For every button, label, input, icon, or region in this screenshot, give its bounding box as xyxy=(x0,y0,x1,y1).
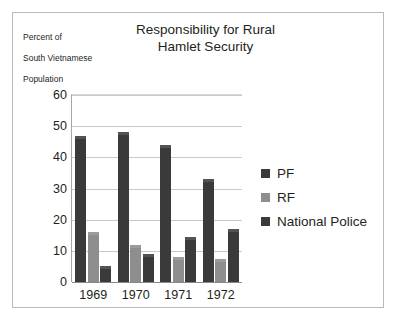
x-axis-tick-label: 1972 xyxy=(207,288,235,302)
bar-highlight xyxy=(118,132,129,135)
bar xyxy=(203,179,214,282)
bar-highlight xyxy=(75,136,86,139)
bar-highlight xyxy=(100,266,111,269)
y-axis-tick-label: 40 xyxy=(53,150,67,164)
chart-frame: Percent of South Vietnamese Population R… xyxy=(12,12,384,308)
legend-item[interactable]: National Police xyxy=(261,209,393,233)
legend-item-label: PF xyxy=(277,166,294,181)
bar xyxy=(143,254,154,282)
x-axis-tick-label: 1969 xyxy=(79,288,107,302)
legend-swatch-icon xyxy=(261,217,270,226)
plot-container: 0102030405060 1969197019711972 xyxy=(59,82,243,282)
bar xyxy=(160,145,171,282)
bar-highlight xyxy=(130,245,141,248)
bar-group xyxy=(75,95,111,282)
bar-highlight xyxy=(228,229,239,232)
x-axis-tick-label: 1971 xyxy=(164,288,192,302)
bar-group xyxy=(160,95,196,282)
bar xyxy=(75,136,86,282)
bar xyxy=(100,266,111,282)
y-axis-caption-line-2: South Vietnamese xyxy=(23,53,92,63)
y-axis-tick-label: 0 xyxy=(60,275,67,289)
bar-group xyxy=(118,95,154,282)
bar xyxy=(228,229,239,282)
chart-title: Responsibility for Rural Hamlet Security xyxy=(113,21,298,55)
chart-title-line-2: Hamlet Security xyxy=(113,38,298,55)
y-axis-tick-label: 50 xyxy=(53,119,67,133)
y-axis-caption-line-1: Percent of xyxy=(23,32,62,42)
y-axis-tick-label: 30 xyxy=(53,182,67,196)
bar-highlight xyxy=(185,237,196,240)
bar-highlight xyxy=(173,257,184,260)
bar-highlight xyxy=(160,145,171,148)
y-axis-tick-label: 60 xyxy=(53,88,67,102)
bar xyxy=(130,245,141,282)
legend-swatch-icon xyxy=(261,193,270,202)
bar-highlight xyxy=(215,259,226,262)
bar xyxy=(215,259,226,282)
y-axis-tick-label: 20 xyxy=(53,213,67,227)
legend-item[interactable]: PF xyxy=(261,161,393,185)
gridline-0 xyxy=(72,282,242,283)
x-axis-tick-label: 1970 xyxy=(122,288,150,302)
chart-title-line-1: Responsibility for Rural xyxy=(113,21,298,38)
y-axis-tick-label: 10 xyxy=(53,244,67,258)
legend-item-label: National Police xyxy=(277,214,367,229)
bar-highlight xyxy=(203,179,214,182)
bar xyxy=(88,232,99,282)
legend-item-label: RF xyxy=(277,190,295,205)
legend-item[interactable]: RF xyxy=(261,185,393,209)
bar xyxy=(185,237,196,282)
plot-area: 0102030405060 1969197019711972 xyxy=(71,94,242,282)
bar xyxy=(173,257,184,282)
chart-legend: PFRFNational Police xyxy=(261,161,393,233)
legend-swatch-icon xyxy=(261,169,270,178)
bar-highlight xyxy=(88,232,99,235)
bar-highlight xyxy=(143,254,154,257)
y-axis-caption-line-3: Population xyxy=(23,74,63,84)
bar xyxy=(118,132,129,282)
bar-group xyxy=(203,95,239,282)
